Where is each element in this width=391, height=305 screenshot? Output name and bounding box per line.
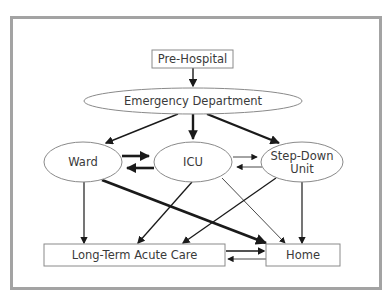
node-label: Long-Term Acute Care bbox=[72, 248, 198, 262]
node-emergency-department: Emergency Department bbox=[84, 88, 302, 114]
edge-ward-home bbox=[102, 180, 266, 243]
node-ward: Ward bbox=[44, 142, 122, 182]
node-label: Ward bbox=[68, 155, 98, 169]
node-prehospital: Pre-Hospital bbox=[152, 50, 233, 68]
edge-stepdown-ltac bbox=[183, 178, 276, 243]
node-label-line1: Step-Down bbox=[271, 149, 334, 163]
node-long-term-acute-care: Long-Term Acute Care bbox=[44, 244, 225, 266]
node-label: Home bbox=[286, 248, 320, 262]
node-label: ICU bbox=[183, 155, 203, 169]
node-label: Pre-Hospital bbox=[158, 52, 227, 66]
patient-flow-diagram: Pre-Hospital Emergency Department Ward I… bbox=[0, 0, 391, 305]
node-home: Home bbox=[266, 244, 340, 266]
node-step-down-unit: Step-Down Unit bbox=[261, 142, 343, 182]
edge-ed-ward bbox=[106, 114, 178, 143]
edge-ed-stepdown bbox=[207, 114, 279, 143]
node-label-line2: Unit bbox=[290, 162, 314, 176]
node-icu: ICU bbox=[154, 142, 232, 182]
edge-icu-home bbox=[222, 178, 285, 243]
node-label: Emergency Department bbox=[124, 94, 263, 108]
